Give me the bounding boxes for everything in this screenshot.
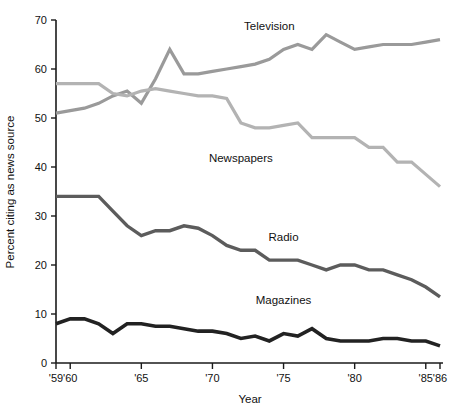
- x-axis-title: Year: [238, 393, 261, 405]
- y-axis: 010203040506070: [35, 14, 56, 369]
- x-axis-tick-label: '59: [49, 372, 63, 384]
- y-axis-tick-label: 50: [35, 112, 47, 124]
- y-axis-tick-label: 40: [35, 161, 47, 173]
- series-label-radio: Radio: [269, 231, 299, 243]
- y-axis-tick-label: 10: [35, 308, 47, 320]
- x-axis-tick-label: '85: [419, 372, 433, 384]
- news-source-line-chart: 010203040506070 '59'60'65'70'75'80'85'86…: [0, 0, 459, 412]
- series-line-television: [56, 35, 440, 113]
- y-axis-tick-label: 70: [35, 14, 47, 26]
- x-axis-tick-label: '60: [63, 372, 77, 384]
- series-line-magazines: [56, 319, 440, 346]
- x-axis-tick-label: '86: [433, 372, 447, 384]
- chart-canvas: 010203040506070 '59'60'65'70'75'80'85'86…: [0, 0, 459, 412]
- series-label-newspapers: Newspapers: [209, 152, 273, 164]
- y-axis-tick-label: 30: [35, 210, 47, 222]
- y-axis-tick-label: 20: [35, 259, 47, 271]
- series-label-magazines: Magazines: [256, 294, 312, 306]
- data-lines: [56, 35, 440, 346]
- x-axis-tick-label: '75: [276, 372, 290, 384]
- y-axis-tick-label: 60: [35, 63, 47, 75]
- y-axis-tick-label: 0: [41, 357, 47, 369]
- y-axis-title: Percent citing as news source: [4, 116, 16, 269]
- x-axis-tick-label: '80: [347, 372, 361, 384]
- series-line-radio: [56, 196, 440, 296]
- x-axis-tick-label: '65: [134, 372, 148, 384]
- series-line-newspapers: [56, 84, 440, 187]
- x-axis: '59'60'65'70'75'80'85'86: [49, 363, 447, 384]
- x-axis-tick-label: '70: [205, 372, 219, 384]
- series-label-television: Television: [244, 20, 295, 32]
